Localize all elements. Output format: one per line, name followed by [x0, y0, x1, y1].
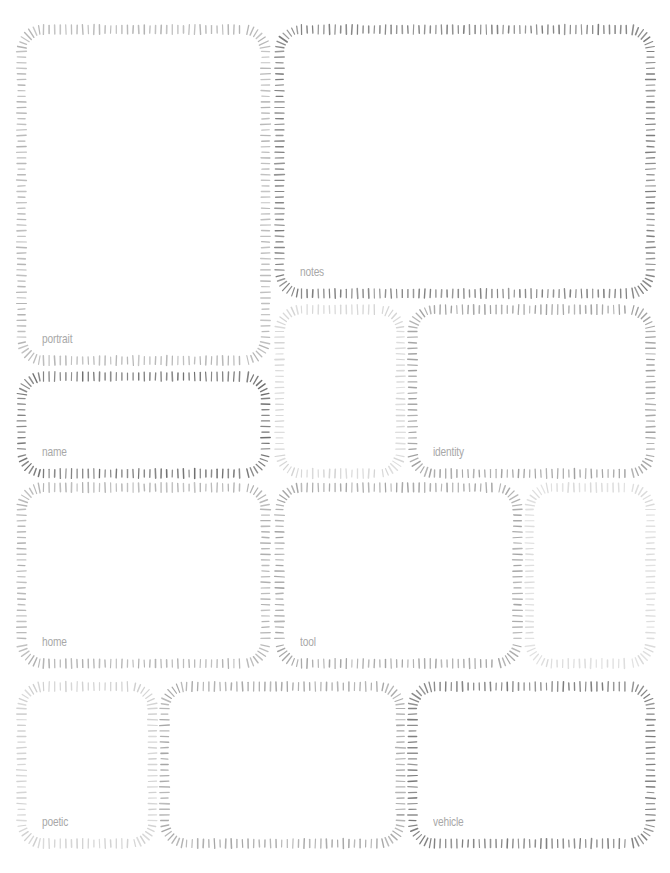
hatched-border-icon	[160, 682, 405, 848]
frame-label-notes: notes	[300, 265, 324, 278]
frame-label-home: home	[42, 635, 67, 648]
frame-poetic[interactable]: poetic	[17, 682, 157, 848]
hatched-border-icon	[275, 25, 655, 298]
frame-label-poetic: poetic	[42, 815, 68, 828]
frame-portrait[interactable]: portrait	[17, 25, 270, 365]
frame-blank-small-middle[interactable]	[275, 305, 405, 478]
hatched-border-icon	[275, 305, 405, 478]
template-sheet: portrait notes name identity home tool p…	[0, 0, 670, 873]
frame-label-tool: tool	[300, 635, 316, 648]
frame-notes[interactable]: notes	[275, 25, 655, 298]
frame-home[interactable]: home	[17, 483, 270, 668]
frame-label-vehicle: vehicle	[433, 815, 463, 828]
frame-blank-small-right[interactable]	[525, 483, 655, 668]
hatched-border-icon	[17, 682, 157, 848]
hatched-border-icon	[17, 25, 270, 365]
frame-blank-wide-bottom[interactable]	[160, 682, 405, 848]
frame-tool[interactable]: tool	[275, 483, 522, 668]
frame-label-identity: identity	[433, 445, 464, 458]
frame-vehicle[interactable]: vehicle	[408, 682, 655, 848]
hatched-border-icon	[17, 372, 270, 478]
frame-label-portrait: portrait	[42, 332, 72, 345]
frame-name[interactable]: name	[17, 372, 270, 478]
frame-label-name: name	[42, 445, 67, 458]
hatched-border-icon	[525, 483, 655, 668]
frame-identity[interactable]: identity	[408, 305, 655, 478]
